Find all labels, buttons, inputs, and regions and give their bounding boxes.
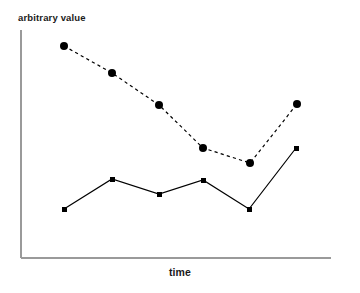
data-point (247, 207, 252, 212)
data-point (110, 177, 115, 182)
data-point (108, 69, 116, 77)
data-point (293, 100, 301, 108)
data-point (294, 146, 299, 151)
axis-lines (21, 30, 331, 258)
series-dashed-markers (60, 42, 301, 167)
data-point (199, 144, 207, 152)
series-solid-markers (62, 146, 299, 212)
data-point (157, 192, 162, 197)
chart-figure: arbitrary value time (0, 0, 360, 293)
data-point (60, 42, 68, 50)
series-dashed-line (64, 46, 297, 163)
data-point (246, 159, 254, 167)
plot-area (0, 0, 360, 293)
data-point (62, 207, 67, 212)
series-solid (62, 146, 299, 212)
data-point (201, 178, 206, 183)
x-axis-label: time (0, 266, 360, 279)
data-point (155, 101, 163, 109)
series-solid-line (64, 148, 296, 209)
series-dashed (60, 42, 301, 167)
